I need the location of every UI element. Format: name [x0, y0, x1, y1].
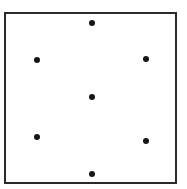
scatter-figure — [0, 0, 187, 189]
data-point — [89, 94, 95, 100]
data-point — [34, 134, 40, 140]
plot-frame — [4, 12, 177, 184]
data-point — [34, 57, 40, 63]
data-point — [89, 171, 95, 177]
data-point — [143, 138, 149, 144]
data-point — [143, 56, 149, 62]
data-point — [89, 20, 95, 26]
